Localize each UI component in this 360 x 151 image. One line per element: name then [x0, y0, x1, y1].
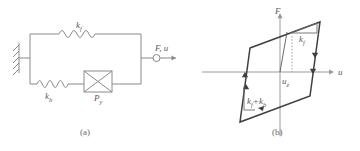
force-displacement-arrow	[160, 56, 176, 61]
label-axis-u: u	[338, 67, 343, 77]
initial-loading-branch	[280, 32, 287, 72]
label-spring-kb: kb	[45, 91, 53, 103]
friction-element-Py	[84, 71, 141, 92]
label-slope-kf: kf	[299, 34, 306, 46]
fixed-support-icon	[13, 43, 30, 75]
panel-a-rheological-model: kf kb Py F, u (a)	[0, 0, 180, 151]
label-force-displacement: F, u	[154, 43, 169, 53]
panel-b-hysteresis-loop: F u kf kf+kb uz (b)	[180, 0, 360, 151]
label-spring-kf: kf	[76, 20, 83, 32]
slope-triangle-kf-upper	[290, 23, 317, 33]
label-friction-Py: Py	[93, 93, 103, 105]
right-node-bar	[141, 34, 160, 84]
panel-a-svg: kf kb Py F, u (a)	[0, 0, 180, 151]
axis-F-vertical	[277, 13, 282, 136]
figure-container: kf kb Py F, u (a)	[0, 0, 360, 151]
branch-top-spring-kf	[30, 31, 141, 38]
label-yield-displacement-uz: uz	[282, 76, 290, 88]
branch-bottom-spring-kb	[30, 81, 84, 88]
caption-panel-b: (b)	[272, 127, 283, 137]
caption-panel-a: (a)	[80, 127, 90, 137]
label-axis-F: F	[274, 6, 281, 16]
panel-b-svg: F u kf kf+kb uz (b)	[180, 0, 360, 151]
label-slope-kf-kb: kf+kb	[247, 96, 267, 108]
